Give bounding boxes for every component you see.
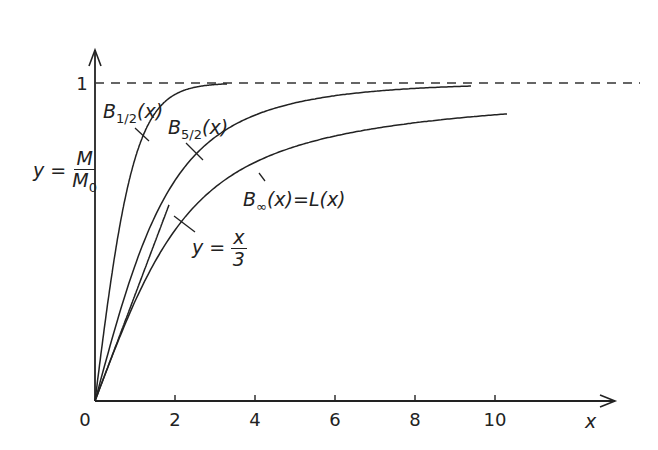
b-half-arg: (x) (137, 100, 163, 122)
label-b-inf: B∞(x)=L(x) (243, 190, 346, 213)
curve-b-five-half (95, 86, 471, 401)
x-tick-label: 2 (169, 411, 180, 429)
y-axis-numerator: M (74, 149, 94, 170)
b-half-sub: 1/2 (116, 111, 137, 126)
curve-langevin (95, 114, 507, 401)
chart-canvas (0, 0, 658, 450)
b-inf-base: B (243, 188, 256, 210)
y-axis-label-lhs: y = (33, 159, 66, 181)
b-inf-sub: ∞ (256, 199, 267, 214)
line-x-over-3 (95, 205, 169, 401)
x-tick-label: 10 (484, 411, 507, 429)
x-tick-label: 4 (249, 411, 260, 429)
den-base: M (72, 169, 88, 191)
label-b-five-half: B5/2(x) (168, 118, 228, 141)
y-axis-denominator: M0 (72, 170, 97, 194)
linear-lhs: y = (192, 236, 225, 258)
y-axis-fraction: M M0 (72, 149, 97, 194)
b-inf-arg: (x)=L(x) (267, 188, 346, 210)
b-five-sub: 5/2 (181, 127, 202, 142)
x-tick-label: 0 (79, 411, 90, 429)
b-five-base: B (168, 116, 181, 138)
x-tick-label: 6 (329, 411, 340, 429)
label-b-half: B1/2(x) (103, 102, 163, 125)
leader-b-five-half (186, 143, 203, 160)
den-sub: 0 (89, 180, 97, 195)
linear-den: 3 (233, 249, 245, 269)
linear-fraction: x 3 (231, 228, 246, 269)
label-linear: y = x 3 (192, 228, 247, 269)
y-axis-label: y = M M0 (33, 149, 97, 194)
b-half-base: B (103, 100, 116, 122)
x-axis-label: x (585, 412, 596, 431)
y-tick-1: 1 (76, 75, 87, 93)
x-tick-label: 8 (409, 411, 420, 429)
linear-num: x (231, 228, 246, 249)
b-five-arg: (x) (202, 116, 228, 138)
leader-b-inf (259, 173, 265, 181)
